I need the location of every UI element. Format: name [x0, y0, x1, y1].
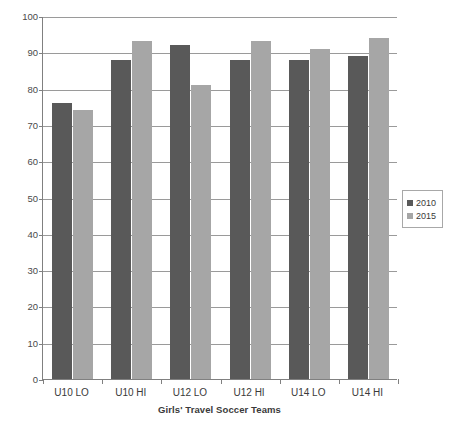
- plot-area: [42, 17, 397, 380]
- x-axis-tickmark: [280, 379, 281, 384]
- bar-2010-U10-HI: [111, 60, 131, 379]
- bar-2015-U12-LO: [191, 85, 211, 379]
- y-axis-tick-label: 0: [12, 375, 38, 385]
- y-axis-tick-label: 70: [12, 121, 38, 131]
- x-axis-tickmark: [102, 379, 103, 384]
- x-axis-tick-label: U12 LO: [160, 386, 219, 399]
- bar-2010-U12-HI: [230, 60, 250, 379]
- x-axis-tick-label: U12 HI: [220, 386, 279, 399]
- bar-2015-U14-HI: [369, 38, 389, 379]
- legend: 20102015: [402, 190, 443, 228]
- y-axis-tick-label: 20: [12, 302, 38, 312]
- bar-2010-U14-LO: [289, 60, 309, 379]
- legend-label: 2010: [416, 198, 436, 208]
- bar-group: [339, 17, 398, 379]
- bar-2010-U12-LO: [170, 45, 190, 379]
- bars-layer: [43, 17, 397, 379]
- y-axis-tick-label: 90: [12, 48, 38, 58]
- legend-item-2010[interactable]: 2010: [407, 196, 439, 209]
- legend-swatch-icon: [407, 213, 413, 219]
- bar-chart: Male Head Coaches (percentage) 010203040…: [0, 0, 450, 426]
- bar-group: [102, 17, 161, 379]
- legend-item-2015[interactable]: 2015: [407, 209, 439, 222]
- x-axis-tick-label: U14 LO: [279, 386, 338, 399]
- bar-2015-U14-LO: [310, 49, 330, 379]
- y-axis-tick-label: 50: [12, 194, 38, 204]
- legend-label: 2015: [416, 211, 436, 221]
- bar-2015-U10-LO: [73, 110, 93, 379]
- bar-group: [221, 17, 280, 379]
- x-axis-tickmark: [339, 379, 340, 384]
- bar-2010-U10-LO: [52, 103, 72, 379]
- x-axis-tickmark: [398, 379, 399, 384]
- x-axis-tick-labels: U10 LOU10 HIU12 LOU12 HIU14 LOU14 HI: [42, 386, 397, 400]
- y-axis-tick-label: 60: [12, 157, 38, 167]
- bar-2015-U10-HI: [132, 41, 152, 379]
- y-axis-tick-label: 100: [12, 12, 38, 22]
- y-axis-tick-label: 30: [12, 266, 38, 276]
- x-axis-tickmark: [43, 379, 44, 384]
- x-axis-tickmark: [221, 379, 222, 384]
- x-axis-title: Girls' Travel Soccer Teams: [42, 404, 397, 415]
- x-axis-tick-label: U14 HI: [338, 386, 397, 399]
- y-axis-tick-label: 10: [12, 339, 38, 349]
- y-axis-tick-label: 40: [12, 230, 38, 240]
- bar-group: [161, 17, 220, 379]
- bar-group: [43, 17, 102, 379]
- bar-group: [280, 17, 339, 379]
- y-axis-tick-label: 80: [12, 85, 38, 95]
- legend-swatch-icon: [407, 200, 413, 206]
- x-axis-tick-label: U10 LO: [42, 386, 101, 399]
- bar-2015-U12-HI: [251, 41, 271, 379]
- y-axis-tick-labels: 0102030405060708090100: [12, 17, 38, 380]
- bar-2010-U14-HI: [348, 56, 368, 379]
- x-axis-tick-label: U10 HI: [101, 386, 160, 399]
- x-axis-tickmark: [161, 379, 162, 384]
